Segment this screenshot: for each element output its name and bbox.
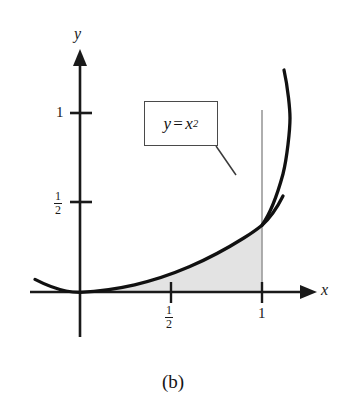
x-tick-half-denominator: 2 (165, 317, 173, 331)
x-axis-label: x (321, 282, 328, 298)
y-tick-label-one-half: 1 2 (54, 190, 62, 216)
x-tick-label-1: 1 (258, 306, 266, 321)
parabola-plot (0, 0, 346, 420)
equation-x-symbol: x (185, 114, 193, 134)
shaded-area-under-curve (80, 225, 262, 292)
equation-equals-symbol: = (171, 114, 185, 134)
y-axis-arrowhead (73, 49, 87, 66)
x-axis-arrowhead (300, 285, 317, 299)
callout-leader-line (216, 146, 236, 175)
x-tick-half-numerator: 1 (165, 304, 173, 317)
x-tick-label-one-half: 1 2 (165, 304, 173, 330)
figure-container: y x 1 1 2 1 2 1 y = x2 (b) (0, 0, 346, 420)
y-tick-label-1: 1 (56, 105, 64, 120)
equation-y-symbol: y (163, 114, 171, 134)
equation-callout-box: y = x2 (144, 101, 218, 146)
y-axis-label: y (74, 26, 81, 42)
y-tick-half-denominator: 2 (54, 203, 62, 217)
equation-callout-text: y = x2 (145, 102, 217, 145)
parabola-curve-upper-tail (262, 70, 290, 225)
figure-caption: (b) (0, 371, 346, 393)
y-tick-half-numerator: 1 (54, 190, 62, 203)
